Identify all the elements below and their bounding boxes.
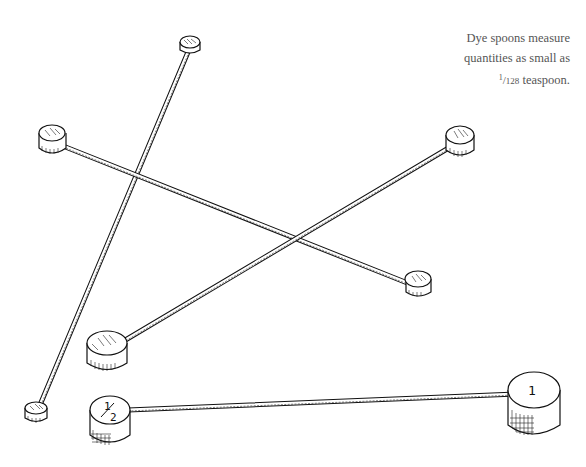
fraction-denominator: 128 [506,76,520,86]
spoon-c-right-cup [446,126,474,157]
caption: Dye spoons measure quantities as small a… [400,28,570,91]
spoon-c-left-cup [87,331,127,371]
half-teaspoon-cup: 1 2 [90,396,130,445]
spoon-b-right-cup [405,271,431,297]
caption-line-3: 1/128 teaspoon. [400,68,570,91]
caption-line-1: Dye spoons measure [400,28,570,48]
spoon-a-top-cup [180,36,200,53]
caption-line-2: quantities as small as [400,48,570,68]
half-label-denominator: 2 [110,411,117,424]
illustration: 1 2 1 Dye spoons measure quantities as s… [0,0,586,467]
one-label: 1 [528,383,536,398]
spoon-c [87,126,474,371]
spoon-a-bottom-cup [25,402,47,423]
spoon-half-to-one: 1 2 1 [90,372,560,445]
spoon-b-left-cup [39,125,66,154]
one-teaspoon-cup: 1 [508,372,560,435]
caption-suffix: teaspoon. [519,73,570,87]
